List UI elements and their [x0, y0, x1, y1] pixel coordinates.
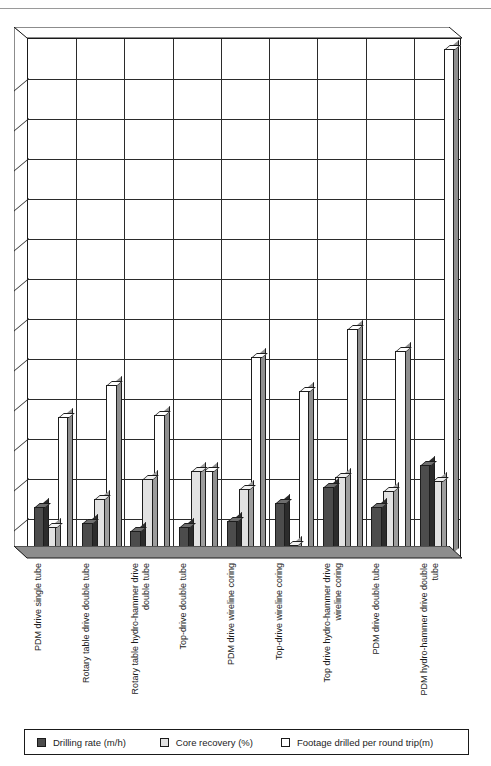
bar-drilling-rate	[420, 465, 431, 557]
bar-group	[275, 39, 310, 557]
legend-item-1[interactable]: Core recovery (%)	[160, 737, 253, 748]
bar-front-face	[420, 465, 431, 557]
x-axis-label-6: Top drive hydro-hammer drive wireline co…	[322, 563, 343, 698]
chart-legend: Drilling rate (m/h)Core recovery (%)Foot…	[24, 729, 469, 755]
x-axis-label-4: PDM drive wireline coring	[226, 563, 237, 698]
x-axis-label-7: PDM drive double tube	[371, 563, 382, 698]
light-gray-swatch	[160, 738, 169, 747]
bar-group	[371, 39, 406, 557]
axis-floor	[14, 546, 463, 560]
bar-group	[323, 39, 358, 557]
dark-gray-swatch	[37, 738, 46, 747]
x-axis-label-8: PDM hydro-hammer drive double tube	[419, 563, 440, 698]
x-axis-label-5: Top-drive wireline coring	[274, 563, 285, 698]
plot-front-face	[27, 38, 461, 558]
bar-group	[130, 39, 165, 557]
legend-label-1: Core recovery (%)	[176, 737, 253, 748]
gridline-vertical	[221, 39, 222, 557]
plot-area	[14, 27, 469, 559]
legend-label-0: Drilling rate (m/h)	[53, 737, 126, 748]
bar-group	[227, 39, 262, 557]
bar-group	[34, 39, 69, 557]
bar-group	[179, 39, 214, 557]
gridline-vertical	[366, 39, 367, 557]
x-axis-label-0: PDM drive single tube	[33, 563, 44, 698]
bar-front-face	[299, 391, 310, 557]
legend-item-2[interactable]: Footage drilled per round trip(m)	[281, 737, 433, 748]
gridline-vertical	[317, 39, 318, 557]
gridline-vertical	[269, 39, 270, 557]
legend-item-0[interactable]: Drilling rate (m/h)	[37, 737, 126, 748]
white-swatch	[281, 738, 290, 747]
bar-group	[82, 39, 117, 557]
x-axis-label-3: Top-drive double tube	[178, 563, 189, 698]
legend-label-2: Footage drilled per round trip(m)	[297, 737, 433, 748]
x-axis-labels: PDM drive single tubeRotary table drive …	[14, 563, 469, 703]
x-axis-label-1: Rotary table drive double tube	[81, 563, 92, 698]
bar-footage-per-trip	[299, 391, 310, 557]
gridline-vertical	[124, 39, 125, 557]
bar-chart-figure: PDM drive single tubeRotary table drive …	[0, 0, 491, 766]
bar-group	[420, 39, 455, 557]
x-axis-label-2: Rotary table hydro-hammer drive double t…	[130, 563, 151, 698]
gridline-vertical	[414, 39, 415, 557]
gridline-vertical	[76, 39, 77, 557]
gridline-vertical	[173, 39, 174, 557]
